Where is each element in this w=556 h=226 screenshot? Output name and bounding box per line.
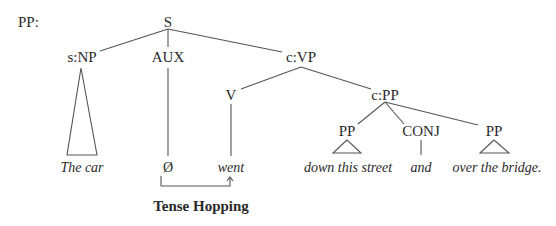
node-pp-left: PP xyxy=(339,123,356,139)
node-aux: AUX xyxy=(152,49,185,65)
syntax-tree-diagram: PP: S s:NP AUX c:VP V c:PP PP CONJ xyxy=(0,0,556,226)
edge-vp-v xyxy=(241,67,301,89)
leaf-pp-right: over the bridge. xyxy=(452,160,541,175)
edge-pp-conj xyxy=(385,102,404,124)
tree-nodes: S s:NP AUX c:VP V c:PP PP CONJ PP xyxy=(67,14,502,139)
node-complement-vp: c:VP xyxy=(286,49,316,65)
edge-s-vp xyxy=(168,29,282,52)
leaf-null-aux: Ø xyxy=(163,160,173,175)
node-complement-pp: c:PP xyxy=(371,87,399,103)
tense-hopping-bracket xyxy=(161,176,230,186)
node-conj: CONJ xyxy=(402,123,440,139)
edge-vp-pp xyxy=(301,67,371,89)
pp-right-triangle-icon xyxy=(480,140,509,153)
pp-left-triangle-icon xyxy=(333,140,361,153)
caption-tense-hopping: Tense Hopping xyxy=(153,198,249,214)
edge-s-np xyxy=(100,29,168,51)
edge-pp-ppright xyxy=(385,102,478,125)
tree-leaves: The car Ø went down this street and over… xyxy=(60,160,541,175)
edge-pp-ppleft xyxy=(358,102,385,124)
np-triangle-icon xyxy=(67,68,97,155)
leaf-subject: The car xyxy=(60,160,104,175)
leaf-verb: went xyxy=(218,160,246,175)
leaf-pp-left: down this street xyxy=(304,160,393,175)
node-s: S xyxy=(164,14,172,30)
node-verb: V xyxy=(226,87,237,103)
leaf-conj: and xyxy=(411,160,433,175)
prefix-label: PP: xyxy=(18,14,39,30)
node-subject-np: s:NP xyxy=(67,49,96,65)
node-pp-right: PP xyxy=(486,123,503,139)
